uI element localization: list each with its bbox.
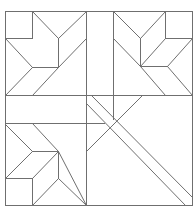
background xyxy=(0,0,196,213)
quilt-block-diagram xyxy=(0,0,196,213)
